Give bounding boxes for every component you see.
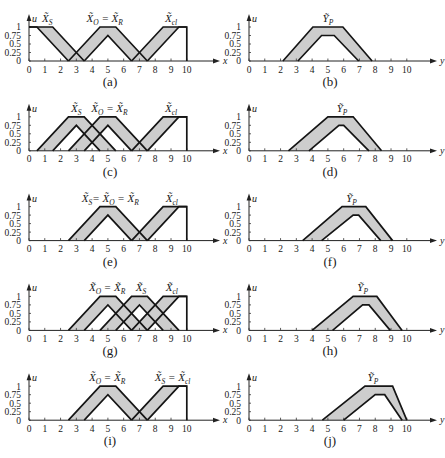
y-axis-label: u [252,193,257,204]
y-axis-arrow-icon [247,283,252,290]
y-axis-arrow-icon [247,14,252,21]
x-tick-label: 10 [182,334,192,344]
set-label: X̃O​ = X̃R​ [88,281,126,296]
x-tick-label: 2 [278,65,283,75]
x-tick-label: 9 [169,244,174,254]
x-axis-label: y [439,324,445,335]
x-tick-label: 0 [247,154,252,164]
x-tick-label: 7 [137,244,142,254]
x-tick-label: 0 [247,424,252,434]
panel-i: 01234567891000.250.50.751xuX̃O​ = X̃R​X̃… [4,371,228,448]
x-tick-label: 6 [121,65,126,75]
x-tick-label: 4 [90,154,95,164]
x-axis-label: y [439,414,445,425]
x-tick-label: 7 [137,334,142,344]
x-tick-label: 1 [262,244,267,254]
y-axis-arrow-icon [27,14,32,21]
x-tick-label: 10 [182,65,192,75]
axes: 01234567891000.250.50.751yu [224,372,445,434]
x-tick-label: 9 [389,244,394,254]
panel-b: 01234567891000.250.50.751yuỸP​(b) [224,12,445,89]
x-tick-label: 0 [27,244,32,254]
x-tick-label: 4 [90,65,95,75]
x-tick-label: 6 [341,154,346,164]
fou-fills [283,27,372,61]
y-axis-arrow-icon [27,283,32,290]
y-axis-label: u [252,13,257,24]
x-tick-label: 6 [341,244,346,254]
y-axis-label: u [252,103,257,114]
y-tick-label: 1 [16,112,21,122]
y-axis-label: u [252,372,257,383]
x-tick-label: 0 [27,424,32,434]
x-tick-label: 1 [262,65,267,75]
x-tick-label: 10 [402,334,412,344]
x-tick-label: 4 [310,154,315,164]
x-tick-label: 4 [310,65,315,75]
panel-j: 01234567891000.250.50.751yuỸP​(j) [224,371,445,448]
x-axis-arrow-icon [430,59,437,64]
y-axis-label: u [32,372,37,383]
y-tick-label: 0.5 [229,219,241,229]
x-tick-label: 7 [137,154,142,164]
panel-a: 01234567891000.250.50.751xuX̃S​X̃O​ = X̃… [4,12,228,89]
x-tick-label: 8 [373,65,378,75]
x-tick-label: 9 [169,334,174,344]
x-tick-label: 10 [402,244,412,254]
x-tick-label: 4 [310,424,315,434]
set-label: X̃S​ [70,102,82,117]
set-label-symbol: = [101,281,114,293]
x-tick-label: 6 [121,154,126,164]
y-axis-label: u [252,282,257,293]
x-tick-label: 10 [182,244,192,254]
set-label: X̃S​ [41,12,53,27]
x-tick-label: 4 [310,244,315,254]
panel-d: 01234567891000.250.50.751yuỸP​(d) [224,102,445,179]
panel-caption: (i) [104,433,116,448]
set-label: ỸP​ [368,371,379,386]
x-tick-label: 3 [294,244,299,254]
x-tick-label: 9 [169,65,174,75]
x-tick-label: 6 [341,424,346,434]
panel-caption: (d) [322,164,337,179]
set-label: X̃cl​ [165,192,178,207]
set-label: X̃cl​ [165,281,178,296]
x-tick-label: 4 [90,244,95,254]
y-tick-label: 1 [16,382,21,392]
set-label: X̃cl​ [164,102,177,117]
panel-caption: (e) [103,254,117,269]
x-tick-label: 8 [373,154,378,164]
x-tick-label: 8 [373,244,378,254]
x-axis-arrow-icon [430,328,437,333]
axes: 01234567891000.250.50.751yu [224,103,445,165]
x-tick-label: 3 [294,154,299,164]
x-tick-label: 3 [74,65,79,75]
y-tick-label: 1 [16,202,21,212]
y-tick-label: 0.75 [224,211,241,221]
x-tick-label: 5 [106,424,111,434]
axes: 01234567891000.250.50.751yu [224,13,445,75]
set-label: X̃O​ = X̃R​ [88,371,126,386]
x-tick-label: 8 [153,154,158,164]
y-axis-label: u [32,103,37,114]
x-tick-label: 2 [278,424,283,434]
x-tick-label: 9 [169,154,174,164]
set-label: X̃cl​ [164,12,177,27]
x-tick-label: 1 [42,154,47,164]
x-tick-label: 1 [262,154,267,164]
figure-canvas: 01234567891000.250.50.751xuX̃S​X̃O​ = X̃… [0,0,445,458]
x-tick-label: 0 [27,334,32,344]
panel-h: 01234567891000.250.50.751yuỸP​(h) [224,281,445,358]
y-tick-label: 1 [236,292,241,302]
x-tick-label: 1 [262,424,267,434]
panel-caption: (b) [322,74,337,89]
x-axis-label: y [439,145,445,156]
y-tick-label: 1 [16,22,21,32]
x-tick-label: 2 [58,334,63,344]
y-axis-arrow-icon [27,194,32,201]
x-tick-label: 6 [341,334,346,344]
x-tick-label: 3 [294,65,299,75]
panel-caption: (h) [322,343,337,358]
x-tick-label: 7 [357,65,362,75]
x-tick-label: 5 [106,244,111,254]
